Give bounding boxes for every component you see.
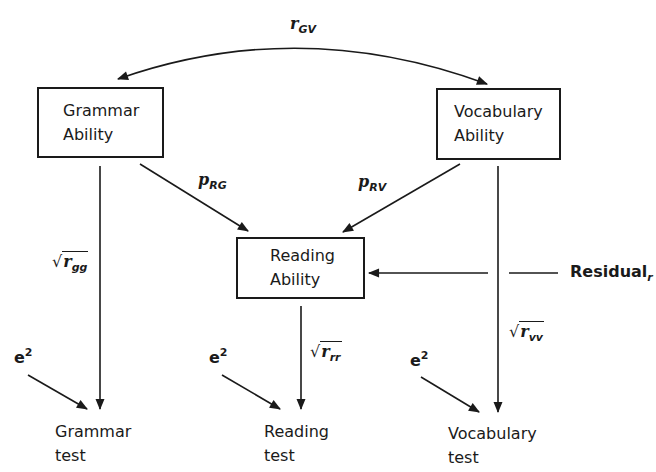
node-label: Grammar — [63, 99, 162, 123]
grammar-ability-node: Grammar Ability — [37, 87, 164, 158]
reading-test-node: Reading test — [264, 420, 329, 468]
vocabulary-ability-node: Vocabulary Ability — [436, 88, 561, 160]
grammar-test-node: Grammar test — [55, 420, 131, 468]
error-arrow-reading — [222, 375, 280, 409]
vocabulary-test-node: Vocabulary test — [448, 422, 537, 470]
error-arrow-vocabulary — [421, 377, 479, 412]
node-label: Ability — [454, 124, 559, 148]
label-sqrt-r-rr: √rrr — [310, 342, 342, 364]
label-sqrt-r-gg: √rgg — [52, 252, 88, 274]
label-r-gv: rGV — [290, 14, 316, 36]
label-sqrt-r-vv: √rvv — [509, 322, 544, 344]
node-label: Ability — [270, 268, 363, 292]
label-error-reading: e2 — [209, 348, 228, 370]
node-label: Vocabulary — [454, 100, 559, 124]
diagram-edges — [0, 0, 656, 472]
reading-ability-node: Reading Ability — [236, 237, 365, 299]
label-error-vocabulary: e2 — [410, 351, 429, 373]
label-residual: Residualr — [570, 262, 653, 284]
correlation-arc — [118, 48, 487, 84]
label-p-rv: pRV — [358, 172, 386, 194]
node-label: Reading — [270, 244, 363, 268]
node-label: Ability — [63, 123, 162, 147]
label-p-rg: pRG — [198, 170, 227, 192]
error-arrow-grammar — [28, 375, 87, 409]
label-error-grammar: e2 — [14, 348, 33, 370]
path-grammar-to-reading — [140, 164, 248, 231]
